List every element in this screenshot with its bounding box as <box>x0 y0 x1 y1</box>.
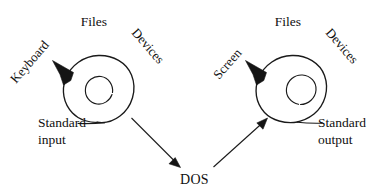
standard-output-group: Files Screen Devices Standard output <box>210 14 366 167</box>
output-files-label: Files <box>275 14 301 29</box>
spiral-inner-icon <box>286 75 316 105</box>
arrowhead-icon <box>246 61 267 86</box>
input-files-label: Files <box>81 14 107 29</box>
arrow-up-right-icon <box>214 122 264 167</box>
standard-output-label-line2: output <box>318 132 353 147</box>
dos-io-diagram: DOS standard input and standard output r… <box>0 0 378 194</box>
spiral-inner-icon <box>85 76 112 104</box>
arrowhead-icon <box>53 61 74 86</box>
output-devices-label: Devices <box>323 25 362 66</box>
screen-label: Screen <box>210 45 245 82</box>
standard-input-label-line2: input <box>38 132 66 147</box>
standard-input-group: Files Keyboard Devices Standard input <box>7 14 181 168</box>
diagram-canvas: DOS standard input and standard output r… <box>0 0 378 194</box>
arrow-down-right-icon <box>132 118 177 163</box>
standard-output-label-line1: Standard <box>318 115 366 130</box>
arrow-down-right-head-icon <box>169 158 181 168</box>
standard-input-label-line1: Standard <box>38 115 86 130</box>
dos-label: DOS <box>180 172 209 187</box>
input-devices-label: Devices <box>129 25 168 66</box>
keyboard-label: Keyboard <box>7 37 52 86</box>
arrow-up-right-head-icon <box>257 118 268 129</box>
spiral-icon <box>63 55 134 122</box>
